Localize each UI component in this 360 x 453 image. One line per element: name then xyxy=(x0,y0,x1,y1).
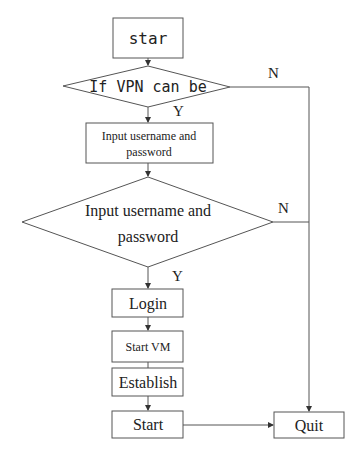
edge-label-creds-no: N xyxy=(278,200,289,216)
node-input-credentials-line1: Input username and xyxy=(102,129,197,143)
node-establish: Establish xyxy=(112,368,183,396)
node-establish-label: Establish xyxy=(119,374,178,391)
node-input-credentials: Input username and password xyxy=(86,123,213,163)
node-login: Login xyxy=(112,289,183,317)
line-vpn-no xyxy=(230,87,309,222)
node-start-vm: Start VM xyxy=(112,331,183,362)
node-quit-label: Quit xyxy=(295,417,324,434)
node-credentials-check: Input username and password xyxy=(22,177,273,267)
edge-label-vpn-yes: Y xyxy=(173,103,184,119)
node-credentials-check-line2: password xyxy=(118,228,178,246)
node-credentials-check-line1: Input username and xyxy=(85,202,211,220)
node-vpn-check: If VPN can be xyxy=(63,66,230,107)
flowchart: star If VPN can be Y N Input username an… xyxy=(0,0,360,453)
node-vpn-check-label: If VPN can be xyxy=(89,78,206,96)
node-start-final-label: Start xyxy=(133,416,164,433)
node-start: star xyxy=(113,18,183,58)
node-start-final: Start xyxy=(112,411,183,438)
edge-label-creds-yes: Y xyxy=(172,268,183,284)
edge-label-vpn-no: N xyxy=(268,65,279,81)
node-input-credentials-line2: password xyxy=(126,145,171,159)
node-start-vm-label: Start VM xyxy=(126,340,171,354)
node-start-label: star xyxy=(129,29,168,48)
node-quit: Quit xyxy=(274,412,344,438)
node-login-label: Login xyxy=(129,295,167,313)
